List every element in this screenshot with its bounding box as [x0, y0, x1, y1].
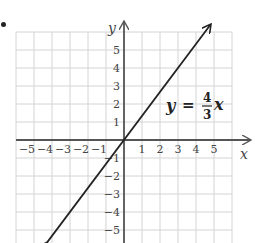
- eq-lhs: y: [165, 96, 177, 115]
- line-y-equals-four-thirds-x: [47, 25, 211, 243]
- y-tick-label: 5: [113, 44, 120, 57]
- x-tick-label: −2: [73, 143, 89, 156]
- eq-denominator: 3: [203, 108, 211, 122]
- y-tick-label: 2: [113, 98, 120, 111]
- eq-var: x: [213, 95, 224, 114]
- x-tick-label: −4: [37, 143, 53, 156]
- x-tick-label: 3: [175, 143, 182, 156]
- x-tick-label: −5: [19, 143, 35, 156]
- x-tick-label: 1: [139, 143, 146, 156]
- x-tick-label: 2: [157, 143, 164, 156]
- y-tick-label: 3: [113, 80, 120, 93]
- y-tick-label: −3: [104, 188, 120, 201]
- eq-sign: =: [182, 96, 195, 114]
- x-tick-label: −3: [55, 143, 71, 156]
- y-axis-label: y: [107, 20, 117, 36]
- coordinate-graph: x y −5−4−3−2−112345 54321−1−2−3−4−5 y = …: [0, 0, 255, 243]
- x-tick-label: 4: [193, 143, 200, 156]
- y-tick-label: 1: [113, 116, 120, 129]
- equation-label: y = 4 3 x: [165, 91, 224, 122]
- eq-numerator: 4: [203, 91, 211, 105]
- y-tick-label: −4: [104, 206, 120, 219]
- y-tick-label: −2: [104, 170, 120, 183]
- y-tick-label: 4: [113, 62, 120, 75]
- x-tick-label: 5: [211, 143, 218, 156]
- x-axis-label: x: [240, 146, 248, 162]
- y-tick-label: −5: [104, 224, 120, 237]
